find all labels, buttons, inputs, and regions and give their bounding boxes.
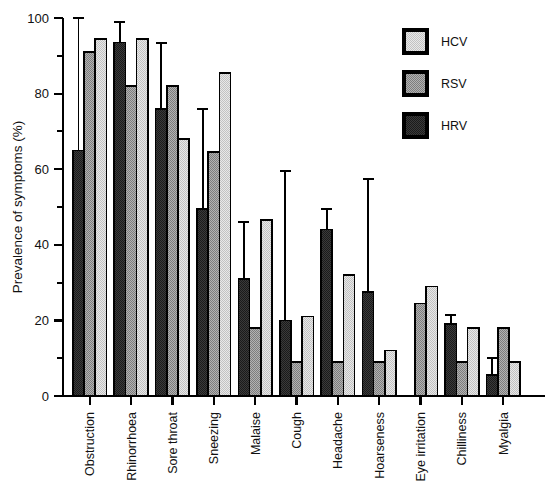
- bar: [84, 52, 95, 396]
- bar: [343, 275, 354, 396]
- bar: [197, 209, 208, 396]
- bar: [321, 230, 332, 396]
- bar-chart-figure: 020406080100 ObstructionRhinorrhoeaSore …: [0, 0, 557, 487]
- x-axis: [63, 396, 545, 405]
- y-tick-label: 40: [35, 237, 49, 252]
- category-label: Malaise: [249, 412, 263, 455]
- bar: [445, 324, 456, 396]
- bar: [291, 362, 302, 396]
- bar: [95, 39, 106, 396]
- bar: [178, 139, 189, 396]
- bar: [250, 328, 261, 396]
- y-axis: 020406080100: [27, 11, 63, 404]
- bar: [415, 303, 426, 396]
- y-tick-label: 20: [35, 313, 49, 328]
- bar: [487, 375, 498, 396]
- bar: [509, 362, 520, 396]
- bar: [114, 43, 125, 396]
- bar: [73, 150, 84, 396]
- category-label: Cough: [290, 412, 304, 449]
- bar: [167, 86, 178, 396]
- bar: [156, 109, 167, 396]
- y-tick-label: 60: [35, 162, 49, 177]
- bar: [374, 362, 385, 396]
- bar: [238, 279, 249, 396]
- chart-legend: HCVRSVHRV: [404, 30, 468, 137]
- y-tick-label: 100: [27, 11, 49, 26]
- bar: [280, 320, 291, 396]
- bar: [426, 286, 437, 396]
- category-label: Hoarseness: [373, 412, 387, 479]
- category-label: Obstruction: [83, 412, 97, 476]
- bar: [468, 328, 479, 396]
- chart-canvas: 020406080100 ObstructionRhinorrhoeaSore …: [0, 0, 557, 487]
- category-label: Rhinorrhoea: [125, 412, 139, 481]
- bar: [362, 292, 373, 396]
- category-label: Myalgia: [497, 412, 511, 455]
- category-label: Headache: [331, 412, 345, 469]
- bar: [137, 39, 148, 396]
- category-label: Sneezing: [207, 412, 221, 464]
- legend-label-rsv: RSV: [441, 77, 467, 91]
- legend-swatch-hcv: [404, 30, 427, 53]
- category-label: Sore throat: [166, 411, 180, 473]
- bar: [219, 73, 230, 396]
- legend-label-hrv: HRV: [441, 119, 468, 133]
- category-label: Chilliness: [455, 412, 469, 466]
- bar: [261, 220, 272, 396]
- legend-label-hcv: HCV: [441, 35, 468, 49]
- category-labels: ObstructionRhinorrhoeaSore throatSneezin…: [83, 411, 511, 481]
- y-axis-title-text: Prevalence of symptoms (%): [10, 121, 25, 294]
- bar: [385, 351, 396, 396]
- bar: [498, 328, 509, 396]
- bar: [208, 152, 219, 396]
- category-label: Eye irritation: [414, 412, 428, 482]
- bar: [332, 362, 343, 396]
- bar: [302, 317, 313, 396]
- y-tick-label: 80: [35, 86, 49, 101]
- y-tick-label: 0: [42, 389, 49, 404]
- bars-layer: [73, 39, 520, 396]
- legend-swatch-hrv: [404, 114, 427, 137]
- bar: [456, 362, 467, 396]
- legend-swatch-rsv: [404, 72, 427, 95]
- bar: [125, 86, 136, 396]
- y-axis-title: Prevalence of symptoms (%): [10, 121, 25, 294]
